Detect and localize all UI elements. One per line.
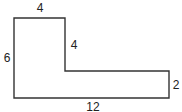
label-top-width: 4 bbox=[37, 1, 44, 15]
label-inner-vertical: 4 bbox=[71, 38, 78, 52]
label-left-height: 6 bbox=[4, 51, 11, 65]
l-shape-diagram: 4 4 6 2 12 bbox=[0, 0, 182, 112]
l-shape-outline bbox=[14, 18, 169, 98]
label-right-height: 2 bbox=[173, 78, 180, 92]
label-bottom-width: 12 bbox=[86, 100, 100, 112]
